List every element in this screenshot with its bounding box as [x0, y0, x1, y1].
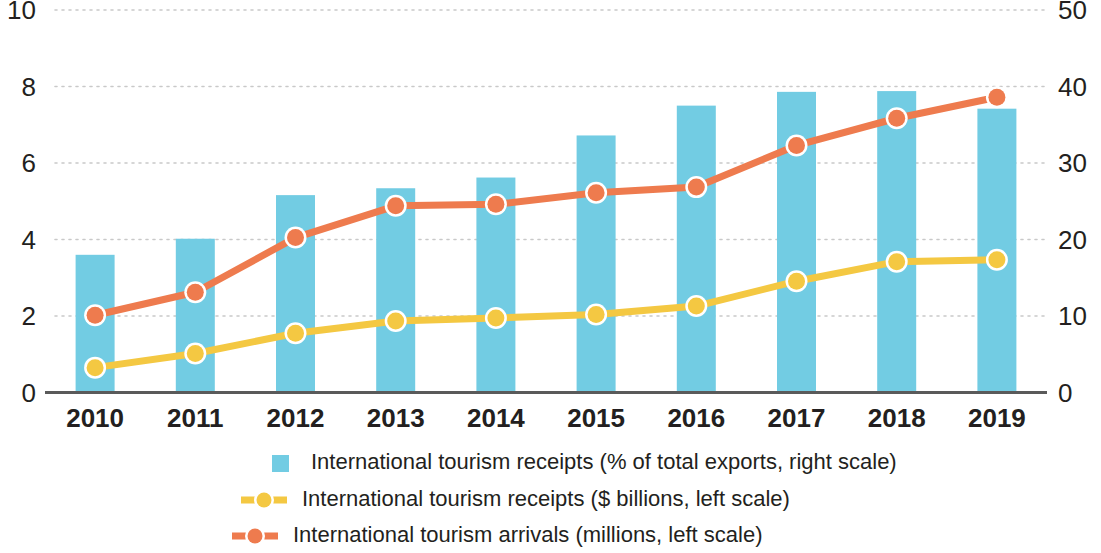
x-tick-2018: 2018	[868, 403, 926, 433]
data-point-2017	[788, 137, 805, 154]
x-tick-2014: 2014	[467, 403, 525, 433]
x-tick-2012: 2012	[267, 403, 325, 433]
left-axis-tick: 2	[22, 301, 36, 331]
left-axis-tick: 8	[22, 72, 36, 102]
chart-container: 0246810 01020304050 20102011201220132014…	[0, 0, 1101, 553]
left-axis-tick: 4	[22, 225, 36, 255]
left-axis-tick: 0	[22, 378, 36, 408]
x-tick-2011: 2011	[167, 403, 223, 433]
legend-label: International tourism receipts ($ billio…	[302, 486, 790, 511]
bar-2012	[276, 195, 315, 392]
x-tick-2013: 2013	[367, 403, 425, 433]
data-point-2011	[187, 284, 204, 301]
x-tick-2015: 2015	[567, 403, 625, 433]
bar-2011	[176, 239, 215, 393]
bar-2016	[677, 106, 716, 393]
legend-marker-dot-icon	[248, 529, 263, 544]
legend-marker-dot-icon	[257, 493, 272, 508]
left-axis-tick: 6	[22, 148, 36, 178]
x-tick-2016: 2016	[667, 403, 725, 433]
data-point-2015	[588, 306, 605, 323]
data-point-2010	[87, 359, 104, 376]
data-point-2015	[588, 184, 605, 201]
bar-2013	[376, 188, 415, 392]
x-tick-2019: 2019	[968, 403, 1026, 433]
data-point-2013	[387, 312, 404, 329]
right-axis-tick: 0	[1058, 378, 1072, 408]
legend-label: International tourism arrivals (millions…	[293, 522, 763, 547]
data-point-2014	[487, 309, 504, 326]
x-tick-2017: 2017	[768, 403, 826, 433]
legend-item-1[interactable]: International tourism receipts (% of tot…	[272, 449, 897, 474]
data-point-2018	[888, 253, 905, 270]
right-axis-tick: 30	[1058, 148, 1087, 178]
right-axis-tick: 50	[1058, 0, 1087, 25]
data-point-2011	[187, 345, 204, 362]
data-point-2016	[688, 179, 705, 196]
right-axis-tick: 20	[1058, 225, 1087, 255]
data-point-2016	[688, 298, 705, 315]
legend-item-3[interactable]: International tourism arrivals (millions…	[232, 522, 763, 547]
legend-swatch-icon	[272, 455, 289, 472]
legend-label: International tourism receipts (% of tot…	[311, 449, 897, 474]
data-point-2012	[287, 325, 304, 342]
data-point-2014	[487, 196, 504, 213]
bar-2018	[877, 91, 916, 392]
data-point-2012	[287, 229, 304, 246]
legend-item-2[interactable]: International tourism receipts ($ billio…	[241, 486, 790, 511]
right-axis-tick: 10	[1058, 301, 1087, 331]
data-point-2019	[988, 251, 1005, 268]
tourism-combo-chart: 0246810 01020304050 20102011201220132014…	[0, 0, 1101, 553]
x-tick-2010: 2010	[66, 403, 124, 433]
bar-2015	[577, 135, 616, 392]
data-point-2013	[387, 197, 404, 214]
data-point-2010	[87, 307, 104, 324]
data-point-2018	[888, 110, 905, 127]
data-point-2017	[788, 273, 805, 290]
data-point-2019	[988, 89, 1005, 106]
right-axis-tick: 40	[1058, 72, 1087, 102]
left-axis-tick: 10	[7, 0, 36, 25]
